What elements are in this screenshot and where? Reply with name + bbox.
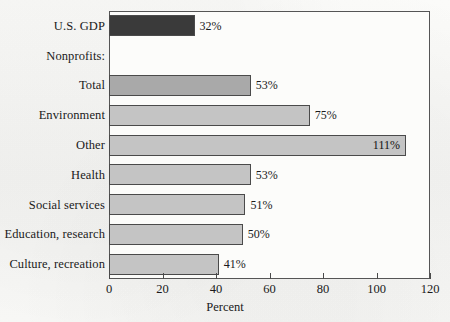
bar-social-services — [109, 194, 245, 215]
category-label-nonprofits-header: Nonprofits: — [46, 50, 105, 63]
x-tick-label: 0 — [106, 283, 112, 296]
bar-chart: U.S. GDP Nonprofits: Total Environment O… — [0, 0, 450, 322]
x-tick — [377, 273, 378, 279]
x-tick — [216, 273, 217, 279]
bar-health — [109, 164, 251, 185]
bar-u-s-gdp — [109, 15, 195, 36]
bar-value-label: 53% — [256, 79, 278, 91]
x-tick-label: 100 — [367, 283, 386, 296]
bar-value-label: 32% — [200, 20, 222, 32]
bar-environment — [109, 105, 310, 126]
category-label-us-gdp: U.S. GDP — [54, 20, 105, 33]
bar-value-label: 111% — [373, 139, 400, 151]
x-tick — [270, 273, 271, 279]
bar-value-label: 50% — [248, 228, 270, 240]
bar-value-label: 75% — [315, 109, 337, 121]
x-tick — [163, 273, 164, 279]
category-label-environment: Environment — [39, 109, 105, 122]
bar-value-label: 41% — [224, 258, 246, 270]
bar-other — [109, 135, 406, 156]
category-label-education-research: Education, research — [5, 228, 105, 241]
x-tick-label: 120 — [421, 283, 440, 296]
category-label-other: Other — [76, 139, 105, 152]
category-label-total: Total — [79, 79, 105, 92]
bar-value-label: 53% — [256, 169, 278, 181]
category-label-culture-recreation: Culture, recreation — [9, 258, 105, 271]
x-tick-label: 40 — [210, 283, 223, 296]
category-label-health: Health — [71, 169, 105, 182]
x-tick — [323, 273, 324, 279]
category-label-social-services: Social services — [29, 199, 105, 212]
x-tick-label: 80 — [317, 283, 330, 296]
x-tick-label: 60 — [263, 283, 276, 296]
bar-total — [109, 75, 251, 96]
bar-value-label: 51% — [250, 199, 272, 211]
bar-education-research — [109, 224, 243, 245]
x-axis-title: Percent — [0, 301, 450, 314]
bar-culture-recreation — [109, 254, 219, 275]
x-tick-label: 20 — [156, 283, 169, 296]
x-tick — [430, 273, 431, 279]
x-tick — [109, 273, 110, 279]
